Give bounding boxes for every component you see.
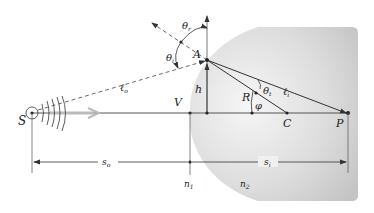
point-C — [285, 111, 288, 114]
label-phi: φ — [255, 100, 262, 111]
point-h-base — [205, 111, 208, 114]
label-V: V — [174, 96, 183, 109]
refraction-diagram: S V A h R C P φ θr θi θt ℓo ℓi so si n1 … — [0, 0, 374, 213]
label-A: A — [192, 48, 201, 61]
label-P: P — [335, 117, 344, 130]
point-A — [205, 58, 209, 62]
label-theta-i: θi — [166, 52, 174, 64]
label-theta-r: θr — [182, 20, 192, 32]
label-h: h — [195, 83, 202, 96]
medium-n2-region — [190, 27, 358, 201]
label-n1: n1 — [184, 179, 194, 190]
point-R — [254, 91, 257, 94]
label-C: C — [283, 117, 292, 130]
label-R: R — [241, 91, 250, 104]
theta-i-arc — [176, 42, 181, 68]
dimension-midpoint — [188, 160, 191, 163]
point-phi — [250, 111, 253, 114]
label-S: S — [18, 114, 26, 128]
